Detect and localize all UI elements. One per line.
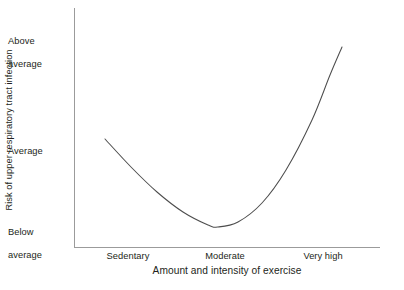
x-tick-label-moderate: Moderate bbox=[180, 250, 270, 262]
y-tick-label-above-average: Above average bbox=[8, 24, 64, 70]
y-tick-label-average: Average bbox=[8, 134, 64, 157]
y-tick-above-line1: Above bbox=[8, 36, 35, 46]
y-tick-average-line1: Average bbox=[8, 146, 43, 156]
x-axis-title: Amount and intensity of exercise bbox=[74, 264, 380, 277]
x-tick-label-very-high: Very high bbox=[278, 250, 368, 262]
y-tick-above-line2: average bbox=[8, 59, 42, 69]
y-tick-below-line1: Below bbox=[8, 227, 34, 237]
risk-curve-line bbox=[105, 47, 342, 227]
y-tick-below-line2: average bbox=[8, 250, 42, 260]
y-tick-label-below-average: Below average bbox=[8, 215, 64, 261]
x-tick-label-sedentary: Sedentary bbox=[83, 250, 173, 262]
chart-figure: Risk of upper respiratory tract infectio… bbox=[0, 0, 404, 290]
